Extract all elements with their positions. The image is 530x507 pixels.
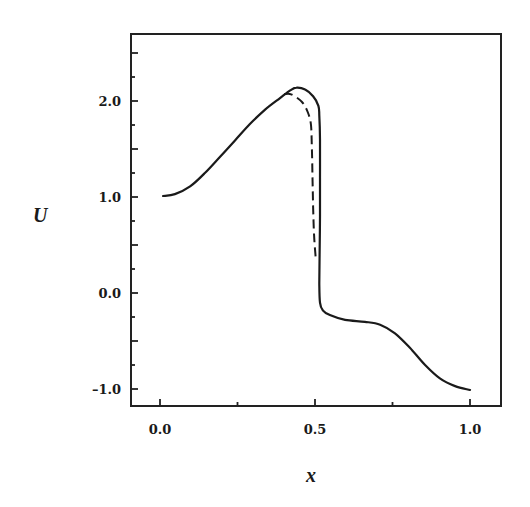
chart: –1.00.01.02.0 0.00.51.0 U x (0, 0, 530, 507)
x-axis-tick-labels: 0.00.51.0 (149, 422, 482, 437)
y-tick-label: 0.0 (98, 286, 121, 301)
series-solid-line (163, 88, 470, 390)
plot-frame (131, 34, 501, 406)
x-tick-label: 0.5 (304, 422, 327, 437)
y-tick-label: –1.0 (92, 382, 121, 397)
series-dashed-line (284, 94, 316, 261)
x-axis-label: x (305, 464, 316, 486)
x-tick-label: 1.0 (459, 422, 482, 437)
x-tick-label: 0.0 (149, 422, 172, 437)
y-tick-label: 2.0 (98, 94, 121, 109)
y-axis-ticks (131, 53, 138, 389)
y-axis-label: U (33, 204, 49, 226)
plot-curves (163, 88, 470, 390)
x-axis-ticks (160, 399, 470, 406)
y-axis-tick-labels: –1.00.01.02.0 (92, 94, 121, 397)
y-tick-label: 1.0 (98, 190, 121, 205)
